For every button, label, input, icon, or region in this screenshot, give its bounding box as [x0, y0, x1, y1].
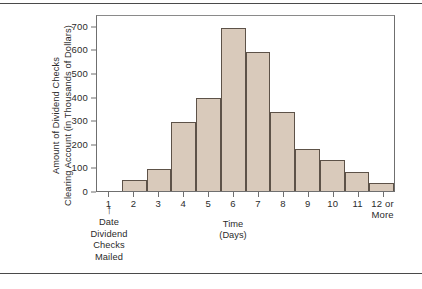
bar-slot: [246, 16, 271, 191]
bar-slot: [221, 16, 246, 191]
y-tick-label: 700: [72, 22, 88, 32]
bar-12-or-More[interactable]: [369, 183, 394, 191]
x-tick-label-line: 8: [270, 198, 295, 209]
y-tick-label: 200: [72, 140, 88, 150]
bar-slot: [147, 16, 172, 191]
bar-10[interactable]: [320, 160, 345, 191]
x-tick-mark: [208, 192, 209, 197]
x-tick-label-line: 11: [345, 198, 370, 209]
bar-slot: [97, 16, 122, 191]
x-tick-label-6: 6: [221, 198, 246, 220]
bar-slot: [270, 16, 295, 191]
x-tick-label-line: 6: [221, 198, 246, 209]
y-tick-label: 0: [83, 187, 88, 197]
x-tick-slot: [320, 192, 345, 197]
x-tick-mark: [383, 192, 384, 197]
x-tick-label-8: 8: [270, 198, 295, 220]
y-tick-label: 600: [72, 46, 88, 56]
x-tick-mark: [108, 192, 109, 197]
bar-7[interactable]: [246, 52, 271, 191]
annotation-line-1: Date: [70, 217, 148, 229]
bar-6[interactable]: [221, 28, 246, 191]
bar-3[interactable]: [147, 169, 172, 191]
x-tick-mark: [283, 192, 284, 197]
x-tick-mark: [308, 192, 309, 197]
bar-slot: [171, 16, 196, 191]
bar-slot: [369, 16, 394, 191]
x-axis-title-line-2: (Days): [188, 230, 278, 241]
x-tick-label-12-or-More: 12 orMore: [370, 198, 395, 220]
x-tick-label-9: 9: [295, 198, 320, 220]
mailing-date-annotation: ↑ Date Dividend Checks Mailed: [70, 205, 148, 263]
x-tick-label-line: 3: [146, 198, 171, 209]
x-tick-slot: [121, 192, 146, 197]
x-tick-slot: [370, 192, 395, 197]
x-tick-slot: [171, 192, 196, 197]
plot-frame: [96, 15, 395, 192]
plot-area: [97, 16, 394, 191]
bar-5[interactable]: [196, 98, 221, 191]
bar-slot: [295, 16, 320, 191]
x-tick-label-11: 11: [345, 198, 370, 220]
histogram-figure: Amount of Dividend Checks Clearing Accou…: [0, 0, 422, 289]
x-tick-label-10: 10: [320, 198, 345, 220]
x-tick-label-line: 7: [246, 198, 271, 209]
x-axis-title: Time (Days): [188, 219, 278, 241]
x-tick-label-line: More: [370, 209, 395, 220]
annotation-line-2: Dividend: [70, 229, 148, 241]
x-tick-marks: [96, 192, 395, 197]
x-tick-label-3: 3: [146, 198, 171, 220]
bar-9[interactable]: [295, 149, 320, 191]
x-tick-label-line: 4: [171, 198, 196, 209]
x-tick-slot: [345, 192, 370, 197]
x-tick-slot: [146, 192, 171, 197]
bar-slot: [320, 16, 345, 191]
bar-slot: [345, 16, 370, 191]
x-tick-mark: [333, 192, 334, 197]
x-tick-slot: [270, 192, 295, 197]
x-tick-slot: [196, 192, 221, 197]
bar-slot: [196, 16, 221, 191]
annotation-line-3: Checks: [70, 240, 148, 252]
bar-11[interactable]: [345, 172, 370, 191]
y-tick-label: 100: [72, 164, 88, 174]
x-tick-label-line: 9: [295, 198, 320, 209]
y-tick-label: 500: [72, 69, 88, 79]
x-tick-mark: [133, 192, 134, 197]
x-tick-mark: [183, 192, 184, 197]
x-tick-label-7: 7: [246, 198, 271, 220]
y-tick-label: 300: [72, 116, 88, 126]
x-tick-slot: [221, 192, 246, 197]
up-arrow-icon: ↑: [70, 205, 148, 217]
x-tick-slot: [96, 192, 121, 197]
x-tick-label-5: 5: [196, 198, 221, 220]
bar-4[interactable]: [171, 122, 196, 191]
x-tick-mark: [158, 192, 159, 197]
x-tick-mark: [258, 192, 259, 197]
annotation-line-4: Mailed: [70, 252, 148, 264]
x-tick-slot: [246, 192, 271, 197]
y-axis: 0100200300400500600700: [50, 15, 96, 192]
x-tick-label-line: 10: [320, 198, 345, 209]
x-tick-mark: [233, 192, 234, 197]
x-tick-label-line: 5: [196, 198, 221, 209]
x-tick-mark: [358, 192, 359, 197]
x-axis-title-line-1: Time: [188, 219, 278, 230]
x-tick-label-line: 12 or: [370, 198, 395, 209]
x-tick-label-4: 4: [171, 198, 196, 220]
y-tick-label: 400: [72, 93, 88, 103]
bar-2[interactable]: [122, 180, 147, 191]
bar-slot: [122, 16, 147, 191]
x-tick-slot: [295, 192, 320, 197]
bar-8[interactable]: [270, 112, 295, 191]
